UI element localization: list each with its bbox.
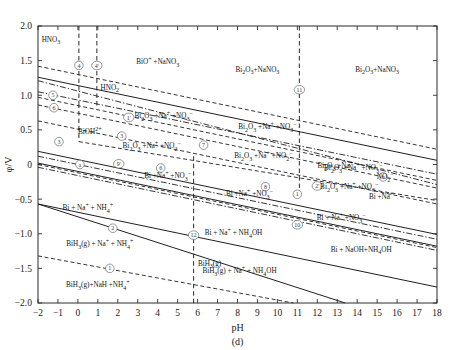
marker-label: 11 <box>296 87 302 93</box>
y-axis-title: φ/V <box>3 156 14 173</box>
marker-label: 7 <box>202 142 205 148</box>
phi-ph-diagram-chart: −2−101234567891011121314151617182.01.51.… <box>0 0 453 350</box>
boundary-marker-mb: b <box>379 173 388 182</box>
marker-label: 1 <box>296 191 299 197</box>
boundary-marker-m3: 3 <box>117 132 126 141</box>
x-tick-label: 18 <box>432 308 442 318</box>
marker-label: 1' <box>127 115 131 121</box>
boundary-marker-m5: 5 <box>49 91 58 100</box>
x-tick-label: 4 <box>155 308 160 318</box>
boundary-marker-m11: 11 <box>294 85 304 94</box>
y-tick-label: 0.5 <box>20 125 32 135</box>
x-tick-label: 14 <box>352 308 362 318</box>
x-tick-label: −1 <box>53 308 63 318</box>
y-tick-label: 2.0 <box>20 21 32 31</box>
figure-caption: (d) <box>232 336 244 348</box>
x-tick-label: 16 <box>392 308 402 318</box>
x-tick-label: 3 <box>135 308 140 318</box>
marker-label: 6 <box>52 105 55 111</box>
x-tick-label: 2 <box>115 308 120 318</box>
boundary-marker-m1l: 1 <box>106 264 115 273</box>
x-tick-label: 0 <box>76 308 81 318</box>
boundary-marker-m8: 8 <box>261 182 270 191</box>
boundary-marker-m9p: 9' <box>114 160 124 169</box>
x-tick-label: 12 <box>313 308 323 318</box>
boundary-marker-m1p: 1' <box>124 113 134 122</box>
boundary-marker-m12: 12 <box>188 231 198 240</box>
boundary-marker-ma: a <box>76 160 85 169</box>
boundary-marker-m7: 7 <box>199 141 208 150</box>
boundary-marker-m4p: 4' <box>92 61 102 70</box>
x-tick-label: 11 <box>293 308 302 318</box>
y-tick-label: −1.5 <box>15 264 32 274</box>
boundary-marker-m6: 6 <box>50 103 59 112</box>
marker-label: 9' <box>117 161 121 167</box>
x-tick-label: 7 <box>215 308 220 318</box>
marker-label: 6 <box>159 165 162 171</box>
marker-label: 2' <box>315 183 319 189</box>
pourbaix-diagram-figure: −2−101234567891011121314151617182.01.51.… <box>0 0 453 350</box>
boundary-marker-m2: 2 <box>109 224 118 233</box>
x-tick-label: 1 <box>95 308 100 318</box>
y-tick-label: 1.5 <box>20 56 32 66</box>
marker-label: 1 <box>108 265 111 271</box>
x-tick-label: 13 <box>333 308 343 318</box>
boundary-marker-m3b: 3 <box>55 137 64 146</box>
boundary-marker-m10: 10 <box>292 220 302 229</box>
x-tick-label: 15 <box>372 308 382 318</box>
marker-label: 4' <box>95 63 99 69</box>
marker-label: 10 <box>294 222 300 228</box>
marker-label: 3 <box>57 139 60 145</box>
x-tick-label: 6 <box>195 308 200 318</box>
marker-label: 2 <box>111 225 114 231</box>
x-tick-label: 5 <box>175 308 180 318</box>
y-tick-label: 0 <box>27 160 32 170</box>
x-tick-label: 9 <box>255 308 260 318</box>
y-tick-label: −1.0 <box>15 229 32 239</box>
marker-label: b <box>382 174 385 180</box>
x-tick-label: 8 <box>235 308 240 318</box>
boundary-marker-m6b: 6 <box>156 164 165 173</box>
y-tick-label: −2.0 <box>15 298 32 308</box>
y-tick-label: −0.5 <box>15 195 32 205</box>
marker-label: a <box>79 162 82 168</box>
x-tick-label: −2 <box>33 308 43 318</box>
marker-label: 4 <box>77 63 80 69</box>
x-axis-title: pH <box>231 322 243 333</box>
boundary-marker-m2p: 2' <box>312 182 322 191</box>
y-tick-label: 1.0 <box>20 91 32 101</box>
x-tick-label: 10 <box>273 308 283 318</box>
marker-label: 5 <box>51 92 54 98</box>
marker-label: 8 <box>264 184 267 190</box>
marker-label: 12 <box>191 232 197 238</box>
boundary-marker-m4: 4 <box>75 61 84 70</box>
boundary-marker-m1: 1 <box>293 190 302 199</box>
x-tick-label: 17 <box>412 308 422 318</box>
marker-label: 3 <box>120 133 123 139</box>
